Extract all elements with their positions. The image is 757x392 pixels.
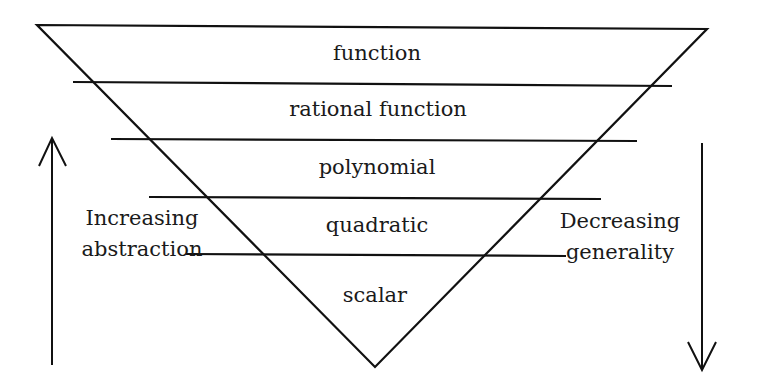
left-annotation-line1: Increasing [82, 203, 203, 234]
level-label-function: function [333, 43, 421, 64]
right-annotation: Decreasing generality [560, 206, 680, 268]
level-divider [111, 139, 637, 141]
level-divider [186, 254, 566, 256]
arrow-down-icon [688, 143, 716, 370]
level-label-quadratic: quadratic [326, 215, 428, 236]
right-annotation-line1: Decreasing [560, 206, 680, 237]
level-divider [73, 82, 672, 86]
level-label-polynomial: polynomial [319, 157, 436, 178]
arrow-up-icon [39, 138, 66, 365]
level-label-rational-function: rational function [289, 99, 467, 120]
right-annotation-line2: generality [560, 237, 680, 268]
pyramid-outline [37, 25, 707, 367]
left-annotation: Increasing abstraction [82, 203, 203, 265]
left-annotation-line2: abstraction [82, 234, 203, 265]
level-divider [149, 197, 601, 199]
level-label-scalar: scalar [343, 285, 407, 306]
